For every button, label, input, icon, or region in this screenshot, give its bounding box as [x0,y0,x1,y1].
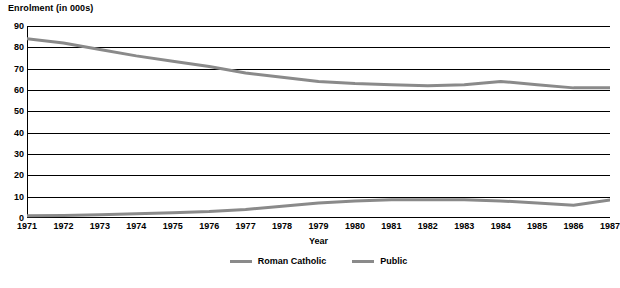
series-lines [27,26,610,218]
y-tick-label: 30 [14,150,24,159]
series-line [27,39,610,88]
legend-label: Public [380,256,407,266]
x-tick-label: 1977 [236,222,256,231]
plot-area: 0102030405060708090 19711972197319741975… [27,26,610,218]
legend-swatch-icon [230,260,252,263]
y-tick-label: 10 [14,192,24,201]
y-tick-label: 50 [14,107,24,116]
x-tick-label: 1976 [199,222,219,231]
x-tick-label: 1980 [345,222,365,231]
y-tick-label: 90 [14,22,24,31]
legend-item[interactable]: Roman Catholic [230,256,327,266]
y-tick-label: 70 [14,64,24,73]
x-tick-label: 1987 [600,222,620,231]
x-tick-label: 1978 [272,222,292,231]
y-axis-title: Enrolment (in 000s) [8,3,93,13]
x-axis-title: Year [27,236,610,246]
chart-legend: Roman CatholicPublic [27,256,610,266]
x-tick-label: 1985 [527,222,547,231]
y-tick-label: 80 [14,43,24,52]
x-tick-label: 1973 [90,222,110,231]
y-tick-label: 60 [14,86,24,95]
series-line [27,200,610,216]
x-tick-label: 1979 [308,222,328,231]
x-tick-label: 1983 [454,222,474,231]
x-tick-label: 1972 [53,222,73,231]
legend-label: Roman Catholic [258,256,327,266]
x-tick-label: 1981 [381,222,401,231]
x-tick-label: 1974 [126,222,146,231]
y-tick-label: 20 [14,171,24,180]
y-tick-label: 40 [14,128,24,137]
legend-swatch-icon [352,260,374,263]
x-tick-label: 1975 [163,222,183,231]
x-tick-label: 1986 [564,222,584,231]
legend-item[interactable]: Public [352,256,407,266]
x-tick-label: 1982 [418,222,438,231]
x-tick-label: 1984 [491,222,511,231]
x-tick-label: 1971 [17,222,37,231]
